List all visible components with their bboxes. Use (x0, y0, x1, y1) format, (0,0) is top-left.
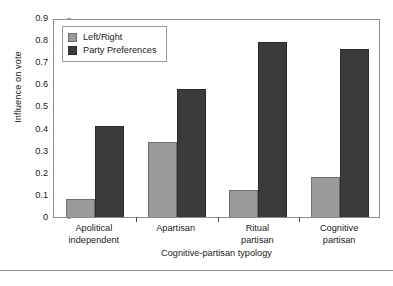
y-tick-label: 0 (18, 213, 48, 222)
x-tick-label: Apoliticalindependent (53, 223, 135, 246)
y-tick-label: 0.4 (18, 125, 48, 134)
bar[interactable] (66, 199, 95, 217)
bar[interactable] (148, 142, 177, 217)
bar[interactable] (258, 42, 287, 217)
bar-chart-figure: Influence on vote 00.10.20.30.40.50.60.7… (0, 0, 393, 286)
y-tick-label: 0.3 (18, 147, 48, 156)
x-tick-mark (299, 217, 300, 222)
bar[interactable] (177, 89, 206, 217)
y-tick-label: 0.5 (18, 103, 48, 112)
x-tick-label-line: partisan (298, 235, 380, 247)
bar-group (299, 20, 381, 217)
chart-legend: Left/Right Party Preferences (62, 26, 167, 62)
y-tick-label: 0.1 (18, 191, 48, 200)
x-tick-label-line: Cognitive (298, 223, 380, 235)
y-tick-label: 0.6 (18, 81, 48, 90)
x-tick-label-line: Apolitical (53, 223, 135, 235)
legend-item: Party Preferences (68, 44, 157, 57)
x-tick-label: Cognitivepartisan (298, 223, 380, 246)
y-tick-label: 0.9 (18, 14, 48, 23)
bar[interactable] (95, 126, 124, 217)
x-tick-label: Apartisan (135, 223, 217, 235)
legend-swatch-icon (68, 33, 77, 42)
x-tick-mark (218, 217, 219, 222)
bar[interactable] (340, 49, 369, 217)
y-axis-tick-labels: 00.10.20.30.40.50.60.70.80.9 (18, 0, 48, 286)
legend-label: Party Preferences (83, 46, 157, 55)
legend-item: Left/Right (68, 31, 157, 44)
legend-swatch-icon (68, 46, 77, 55)
y-tick-label: 0.7 (18, 59, 48, 68)
bar-group-bars (299, 20, 381, 217)
bar-group (218, 20, 300, 217)
x-tick-label-line: partisan (217, 235, 299, 247)
x-axis-title: Cognitive-partisan typology (53, 248, 380, 258)
x-tick-mark (136, 217, 137, 222)
y-tick-label: 0.2 (18, 169, 48, 178)
legend-label: Left/Right (83, 33, 122, 42)
x-tick-label-line: Apartisan (135, 223, 217, 235)
bar[interactable] (229, 190, 258, 217)
x-tick-label-line: Ritual (217, 223, 299, 235)
bar[interactable] (311, 177, 340, 217)
x-tick-label-line: independent (53, 235, 135, 247)
footer-divider (0, 270, 393, 271)
bar-group-bars (218, 20, 300, 217)
plot-area: Left/Right Party Preferences (53, 19, 380, 218)
y-tick-label: 0.8 (18, 37, 48, 46)
x-tick-label: Ritualpartisan (217, 223, 299, 246)
